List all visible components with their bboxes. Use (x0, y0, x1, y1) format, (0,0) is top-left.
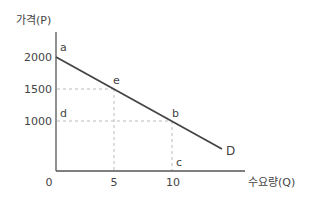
point-label-e: e (113, 74, 120, 87)
y-tick-1000: 1000 (24, 115, 52, 128)
point-label-d: d (60, 107, 67, 120)
y-tick-1500: 1500 (24, 83, 52, 96)
y-axis-label: 가격(P) (16, 14, 51, 27)
demand-curve-line (56, 57, 222, 149)
point-label-a: a (60, 41, 67, 54)
curve-label-d: D (226, 144, 235, 158)
point-label-b: b (172, 107, 179, 120)
point-label-c: c (176, 156, 182, 169)
chart-svg: 가격(P) 수요량(Q) 2000 1500 1000 0 5 10 a e d… (0, 0, 312, 205)
x-tick-5: 5 (111, 176, 118, 189)
x-tick-10: 10 (166, 176, 180, 189)
x-axis-label: 수요량(Q) (248, 176, 295, 189)
demand-curve-chart: 가격(P) 수요량(Q) 2000 1500 1000 0 5 10 a e d… (0, 0, 312, 205)
x-tick-origin: 0 (46, 176, 53, 189)
y-tick-2000: 2000 (24, 51, 52, 64)
